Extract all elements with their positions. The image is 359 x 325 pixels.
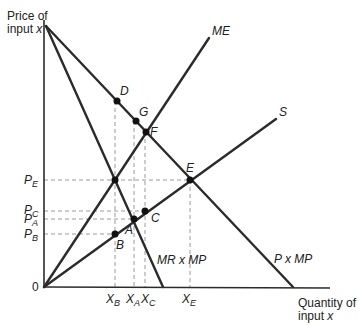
tick-xa: XA	[126, 293, 140, 310]
point-e	[187, 177, 194, 184]
s-label: S	[279, 106, 287, 119]
diagram-canvas	[0, 0, 359, 325]
label-g: G	[139, 106, 148, 119]
label-c: C	[151, 212, 160, 225]
tick-xc: XC	[141, 293, 156, 310]
p-x-mp-label: P x MP	[274, 253, 312, 266]
label-f: F	[150, 126, 157, 139]
point-a	[131, 216, 138, 223]
x-axis-label: Quantity of input x	[298, 297, 356, 323]
label-b: B	[116, 239, 124, 252]
label-a: A	[125, 224, 133, 237]
tick-xe: XE	[182, 293, 196, 310]
label-e: E	[186, 162, 194, 175]
point-f	[143, 129, 150, 136]
tick-xb: XB	[106, 293, 120, 310]
tick-pb: PB	[24, 228, 38, 245]
me-label: ME	[212, 25, 230, 38]
p-x-mp-line	[46, 26, 293, 287]
tick-pe: PE	[24, 174, 38, 191]
x-axis	[44, 287, 330, 288]
point-d	[114, 98, 121, 105]
point-pe-intersection	[112, 177, 119, 184]
label-d: D	[120, 85, 129, 98]
point-c	[142, 208, 149, 215]
point-b	[112, 231, 119, 238]
y-axis-label: Price of input x	[7, 10, 48, 36]
mr-x-mp-label: MR x MP	[157, 254, 206, 267]
origin-label: 0	[32, 281, 39, 294]
